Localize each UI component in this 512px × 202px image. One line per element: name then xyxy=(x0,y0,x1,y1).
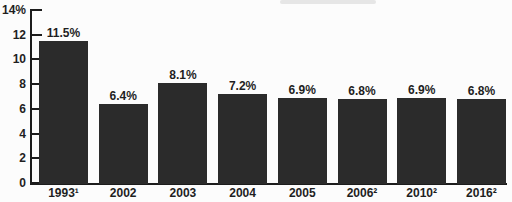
x-axis-label: 2006² xyxy=(330,187,395,199)
y-tick-label: 2 xyxy=(0,152,26,164)
x-axis-label: 2003 xyxy=(150,187,215,199)
bar xyxy=(278,98,327,184)
bar-value-label: 6.9% xyxy=(270,84,335,96)
y-tick-label: 0 xyxy=(0,177,26,189)
x-axis-label: 2004 xyxy=(210,187,275,199)
bar xyxy=(39,41,88,184)
bar-value-label: 6.9% xyxy=(389,84,454,96)
bar xyxy=(457,99,506,184)
x-axis-label: 2002 xyxy=(91,187,156,199)
x-axis-label: 2010² xyxy=(389,187,454,199)
y-tick-label: 10 xyxy=(0,53,26,65)
bar xyxy=(397,98,446,184)
bar-value-label: 6.4% xyxy=(91,90,156,102)
y-tick-label: 14% xyxy=(0,4,26,16)
bar-value-label: 8.1% xyxy=(150,69,215,81)
bar-value-label: 7.2% xyxy=(210,80,275,92)
bar-value-label: 6.8% xyxy=(330,85,395,97)
bar xyxy=(338,99,387,184)
y-tick xyxy=(30,9,42,11)
y-tick-label: 6 xyxy=(0,103,26,115)
bar-chart: 02468101214% 11.5%1993¹6.4%20028.1%20037… xyxy=(0,0,512,202)
bar-value-label: 6.8% xyxy=(449,85,512,97)
bar xyxy=(158,83,207,184)
x-axis-label: 2005 xyxy=(270,187,335,199)
y-tick-label: 12 xyxy=(0,29,26,41)
x-axis-label: 2016² xyxy=(449,187,512,199)
bar xyxy=(99,104,148,184)
chart-canvas: 02468101214% 11.5%1993¹6.4%20028.1%20037… xyxy=(0,0,512,202)
y-tick-label: 8 xyxy=(0,78,26,90)
bar xyxy=(218,94,267,184)
y-tick-label: 4 xyxy=(0,128,26,140)
bar-value-label: 11.5% xyxy=(31,27,96,39)
x-axis-label: 1993¹ xyxy=(31,187,96,199)
